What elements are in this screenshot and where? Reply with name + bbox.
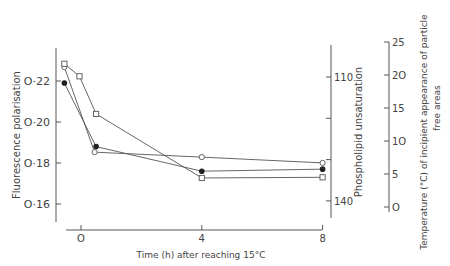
open-square-marker	[77, 74, 82, 79]
series-layer	[62, 61, 326, 180]
temperature-axis-tick-label: O	[392, 202, 400, 213]
phospholipid-axis-tick-label: 140	[334, 196, 353, 207]
filled-circle-marker	[199, 168, 205, 174]
x-axis-tick-label: 4	[199, 233, 205, 244]
temperature-axis-tick-label: 15	[392, 103, 405, 114]
left-axis-tick-label: O·16	[24, 198, 50, 211]
left-axis-tick-label: O·18	[24, 157, 50, 170]
open-circle-marker	[199, 155, 204, 160]
temperature-axis-tick-label: 5	[392, 169, 398, 180]
series-line	[64, 83, 322, 171]
open-square-marker	[94, 111, 99, 116]
temperature-axis-tick-label: 25	[392, 37, 405, 48]
phospholipid-axis-tick-label: 110	[334, 72, 353, 83]
temperature-axis-tick-label: 1O	[392, 136, 406, 147]
labels-layer: O·22O·20O·18O·16Fluorescence polarisatio…	[11, 14, 442, 260]
filled-circle-marker	[93, 144, 99, 150]
x-axis-label: Time (h) after reaching 15°C	[136, 250, 266, 260]
open-square-marker	[320, 175, 325, 180]
open-square-marker	[62, 61, 67, 66]
open-square-marker	[199, 175, 204, 180]
temperature-axis-label: Temperature (°C) of incipient appearance…	[419, 14, 429, 251]
x-axis-tick-label: 8	[319, 233, 325, 244]
left-axis-label: Fluorescence polarisation	[11, 71, 22, 199]
filled-circle-marker	[62, 80, 68, 86]
temperature-axis-label-line2: free areas	[432, 85, 442, 131]
chart: O·22O·20O·18O·16Fluorescence polarisatio…	[0, 0, 450, 266]
x-axis-tick-label: O	[77, 233, 85, 244]
left-axis-tick-label: O·22	[24, 75, 50, 88]
left-axis-tick-label: O·20	[24, 116, 50, 129]
temperature-axis-tick-label: 2O	[392, 70, 406, 81]
open-circle-marker	[92, 150, 97, 155]
phospholipid-axis-label: Phospholipid unsaturation	[353, 67, 364, 197]
filled-circle-marker	[320, 166, 326, 172]
open-circle-marker	[320, 160, 325, 165]
